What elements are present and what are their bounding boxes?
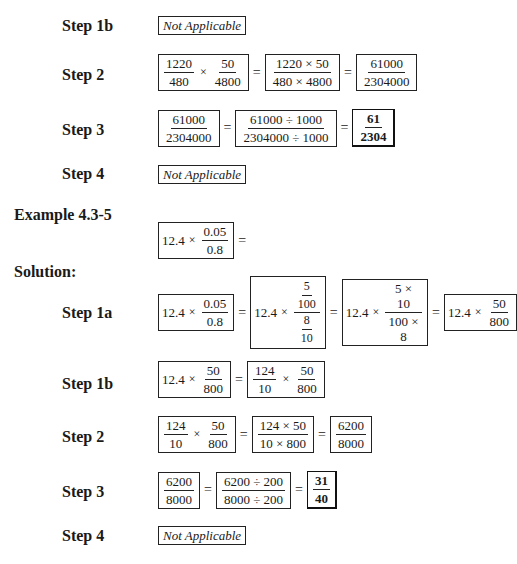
multiplied-fraction-box: 12.4 × 5 × 10100 × 8: [342, 279, 428, 346]
problem-box: 12.4 × 0.050.8: [158, 222, 234, 259]
division-fraction-box: 6200 ÷ 2008000 ÷ 200: [216, 472, 291, 509]
equals-sign: =: [295, 482, 303, 498]
step-4-label: Step 4: [62, 165, 104, 183]
result-fraction-box: 62008000: [330, 416, 372, 453]
equals-sign: =: [341, 120, 349, 136]
equals-sign: =: [235, 372, 243, 388]
product-of-fractions-box: 12410 × 50800: [158, 416, 236, 453]
fraction-box: 610002304000: [158, 110, 220, 147]
fraction-box: 62008000: [158, 472, 200, 509]
fraction-product-box: 12410 × 50800: [247, 361, 325, 398]
combined-fraction-box: 124 × 5010 × 800: [252, 416, 314, 453]
equals-sign: =: [253, 65, 261, 81]
decimal-times-fraction-box: 12.4 × 50800: [158, 361, 231, 398]
not-applicable-box: Not Applicable: [158, 526, 246, 545]
example-problem-row: 12.4 × 0.050.8 =: [158, 222, 250, 259]
step-3-row: 610002304000 = 61000 ÷ 10002304000 ÷ 100…: [158, 109, 395, 147]
step-4-row: Not Applicable: [158, 526, 246, 545]
equals-sign: =: [238, 233, 246, 249]
step-1b-label: Step 1b: [62, 375, 113, 393]
equals-sign: =: [238, 305, 246, 321]
division-fraction-box: 61000 ÷ 10002304000 ÷ 1000: [235, 110, 336, 147]
example-title: Example 4.3-5: [14, 206, 112, 224]
equals-sign: =: [240, 427, 248, 443]
final-answer-box: 612304: [352, 109, 395, 147]
step-1b-label: Step 1b: [62, 17, 113, 35]
simplified-fraction-box: 12.4 × 50800: [444, 294, 517, 331]
complex-fraction-box: 12.4 × 5100 810: [250, 276, 326, 349]
step-3-row: 62008000 = 6200 ÷ 2008000 ÷ 200 = 3140: [158, 471, 337, 509]
fraction: 504800: [213, 56, 243, 89]
step-1a-row: 12.4 × 0.050.8 = 12.4 × 5100 810 = 12.4 …: [158, 276, 517, 349]
equals-sign: =: [432, 305, 440, 321]
step-4-row: Not Applicable: [158, 165, 246, 184]
complex-fraction: 5100 810: [294, 279, 320, 346]
step-2-label: Step 2: [62, 428, 104, 446]
equals-sign: =: [224, 120, 232, 136]
solution-label: Solution:: [14, 263, 76, 281]
step-2-row: 12410 × 50800 = 124 × 5010 × 800 = 62008…: [158, 416, 372, 453]
not-applicable-box: Not Applicable: [158, 165, 246, 184]
step-3-label: Step 3: [62, 121, 104, 139]
not-applicable-box: Not Applicable: [158, 16, 246, 35]
combined-fraction-box: 1220 × 50480 × 4800: [265, 54, 340, 91]
equals-sign: =: [204, 482, 212, 498]
final-answer-box: 3140: [307, 471, 337, 509]
equals-sign: =: [318, 427, 326, 443]
decimal-fraction-box: 12.4 × 0.050.8: [158, 294, 234, 331]
step-2-row: 1220480 × 504800 = 1220 × 50480 × 4800 =…: [158, 54, 417, 91]
equals-sign: =: [344, 65, 352, 81]
equals-sign: =: [330, 305, 338, 321]
result-fraction-box: 610002304000: [356, 54, 418, 91]
step-1b-row: Not Applicable: [158, 16, 246, 35]
step-4-label: Step 4: [62, 527, 104, 545]
step-1a-label: Step 1a: [62, 304, 112, 322]
step-3-label: Step 3: [62, 483, 104, 501]
product-of-fractions-box: 1220480 × 504800: [158, 54, 249, 91]
step-2-label: Step 2: [62, 66, 104, 84]
step-1b-row: 12.4 × 50800 = 12410 × 50800: [158, 361, 325, 398]
fraction: 1220480: [164, 56, 194, 89]
